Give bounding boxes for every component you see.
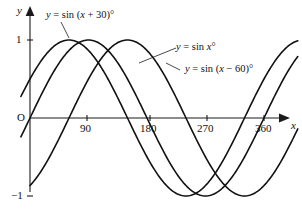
eq2-degree: ° [211, 41, 215, 52]
y-axis [26, 6, 35, 192]
x-tick-label-90: 90 [80, 123, 91, 134]
plot-canvas [0, 0, 302, 218]
x-axis-label: x [291, 120, 296, 131]
x-tick-label-270: 270 [197, 123, 214, 134]
sine-curves-figure: y x O 1 −1 90 180 270 360 y = sin (x + 3… [0, 0, 302, 218]
leader-line-sinx [139, 48, 176, 63]
eq1-offset: 30 [96, 9, 107, 20]
x-axis-arrowhead [279, 114, 290, 123]
leader-line-plus30 [61, 22, 69, 38]
eq3-func: sin [201, 63, 213, 74]
x-tick-label-360: 360 [255, 123, 272, 134]
y-tick-label-minus-1: −1 [11, 190, 23, 201]
eq1-func: sin [62, 9, 74, 20]
origin-label: O [17, 112, 25, 123]
curve-label-sin-x: y = sin x° [176, 42, 216, 53]
y-axis-arrowhead [26, 6, 35, 16]
x-tick-label-180: 180 [140, 123, 157, 134]
eq3-offset: 60 [235, 63, 246, 74]
leader-lines [61, 22, 180, 70]
eq1-degree: ° [110, 9, 114, 20]
y-axis-label: y [17, 5, 22, 16]
eq3-degree: ° [249, 63, 253, 74]
curve-label-sin-x-minus-60: y = sin (x − 60)° [185, 64, 253, 75]
curve-label-sin-x-plus-30: y = sin (x + 30)° [46, 10, 114, 21]
y-tick-label-1: 1 [16, 34, 22, 45]
eq2-func: sin [192, 41, 204, 52]
leader-line-minus60 [166, 63, 180, 70]
